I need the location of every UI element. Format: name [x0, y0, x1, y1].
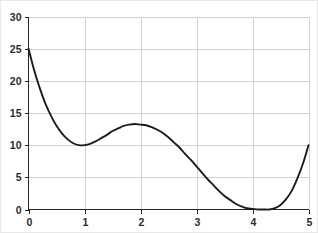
chart-figure: 051015202530 012345	[0, 0, 318, 233]
x-tick-label: 4	[251, 216, 257, 228]
chart-canvas: 051015202530 012345	[0, 0, 318, 233]
x-tick-label: 1	[83, 216, 89, 228]
y-tick-label: 0	[16, 204, 22, 216]
x-tick-label: 2	[139, 216, 145, 228]
x-tick-label: 5	[307, 216, 313, 228]
y-tick-label: 30	[10, 11, 22, 23]
y-tick-label: 25	[10, 43, 22, 55]
chart-background	[0, 0, 318, 233]
y-tick-label: 15	[10, 107, 22, 119]
y-tick-label: 20	[10, 75, 22, 87]
x-tick-label: 0	[27, 216, 33, 228]
y-tick-label: 5	[16, 171, 22, 183]
x-tick-label: 3	[195, 216, 201, 228]
y-tick-label: 10	[10, 139, 22, 151]
